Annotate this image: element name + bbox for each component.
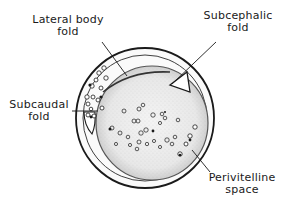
label-subcaudal-fold-line2: fold [6,111,72,123]
label-lateral-body-fold: Lateral body fold [28,14,108,38]
label-perivitelline-space: Perivitelline space [200,172,284,196]
label-lateral-body-fold-line2: fold [28,26,108,38]
label-perivitelline-space-line2: space [200,184,284,196]
label-subcaudal-fold: Subcaudal fold [6,99,72,123]
label-subcephalic-fold-line2: fold [200,22,276,34]
label-subcephalic-fold: Subcephalic fold [200,10,276,34]
